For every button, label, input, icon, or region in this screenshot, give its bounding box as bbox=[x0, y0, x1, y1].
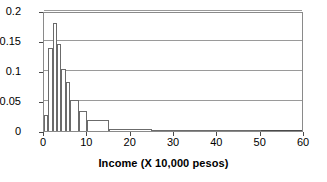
x-tick-label: 0 bbox=[28, 137, 58, 148]
gridline-y-0.1 bbox=[44, 70, 302, 71]
plot-area bbox=[44, 13, 302, 131]
x-tick-label: 50 bbox=[245, 137, 275, 148]
x-tick-label: 40 bbox=[201, 137, 231, 148]
x-tick-label: 30 bbox=[158, 137, 188, 148]
histogram-bar bbox=[152, 130, 260, 131]
gridline-y-0.05 bbox=[44, 100, 302, 101]
histogram-bar bbox=[87, 120, 109, 131]
x-tick-label: 10 bbox=[71, 137, 101, 148]
gridline-y-0.2 bbox=[44, 10, 302, 11]
y-tick-label: 0.2 bbox=[6, 6, 21, 17]
y-tick-label: 0.1 bbox=[6, 66, 21, 77]
y-tick-label: 0.05 bbox=[0, 96, 21, 107]
histogram-bar bbox=[79, 111, 88, 131]
y-tick-label: 0 bbox=[15, 126, 21, 137]
histogram-bar bbox=[70, 100, 79, 131]
gridline-y-0.15 bbox=[44, 40, 302, 41]
histogram-bar bbox=[109, 129, 152, 131]
x-axis-title: Income (X 10,000 pesos) bbox=[0, 157, 327, 169]
plot-frame bbox=[43, 12, 303, 132]
x-tick-label: 60 bbox=[288, 137, 318, 148]
chart-screenshot: 00.050.10.150.2 0102030405060 Income (X … bbox=[0, 0, 327, 182]
x-tick-label: 20 bbox=[115, 137, 145, 148]
y-tick-label: 0.15 bbox=[0, 36, 21, 47]
